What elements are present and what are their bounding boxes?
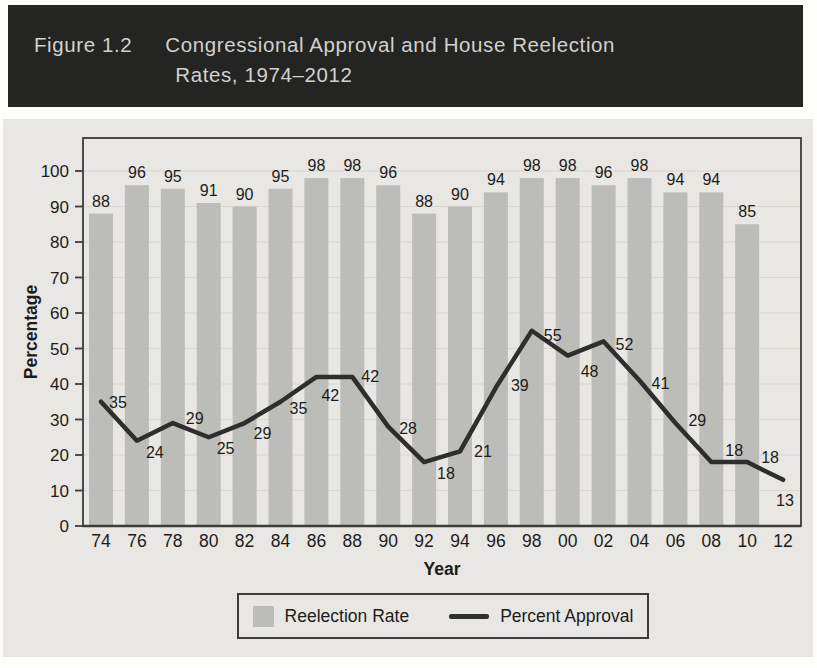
y-axis-tick-label: 100 <box>41 162 69 181</box>
reelection-bar <box>161 189 185 526</box>
approval-value-label: 42 <box>321 387 339 404</box>
bar-value-label: 88 <box>92 193 110 210</box>
chart-panel: 0102030405060708090100747678808284868890… <box>3 119 813 657</box>
reelection-bar <box>304 178 328 526</box>
bar-value-label: 85 <box>738 203 756 220</box>
approval-value-label: 29 <box>186 410 204 427</box>
reelection-bar <box>233 207 257 527</box>
approval-value-label: 52 <box>616 336 634 353</box>
x-axis-tick-label: 96 <box>486 531 505 551</box>
line-swatch-icon <box>449 614 489 619</box>
x-axis-tick-label: 88 <box>343 531 362 551</box>
reelection-bar <box>484 192 508 526</box>
reelection-bar <box>663 192 687 526</box>
approval-value-label: 48 <box>581 363 599 380</box>
y-axis-tick-label: 20 <box>50 446 69 465</box>
reelection-bar <box>412 214 436 526</box>
bar-value-label: 94 <box>487 171 505 188</box>
figure-title-line2: Rates, 1974–2012 <box>175 60 615 90</box>
y-axis-tick-label: 70 <box>50 269 69 288</box>
approval-value-label: 35 <box>290 400 308 417</box>
legend-label-reelection: Reelection Rate <box>285 606 410 627</box>
bar-swatch-icon <box>253 606 274 627</box>
reelection-bar <box>520 178 544 526</box>
y-axis-tick-label: 30 <box>50 411 69 430</box>
approval-value-label: 42 <box>361 368 379 385</box>
x-axis-tick-label: 74 <box>91 531 111 551</box>
reelection-bar <box>699 192 723 526</box>
bar-value-label: 88 <box>415 193 433 210</box>
bar-value-label: 96 <box>128 164 146 181</box>
y-axis-tick-label: 10 <box>50 482 69 501</box>
reelection-bar <box>735 224 759 526</box>
bar-value-label: 95 <box>164 168 182 185</box>
reelection-bar <box>197 203 221 526</box>
figure-title-bar: Figure 1.2 Congressional Approval and Ho… <box>8 5 803 107</box>
bar-value-label: 95 <box>272 168 290 185</box>
y-axis-tick-label: 40 <box>50 375 69 394</box>
figure: Figure 1.2 Congressional Approval and Ho… <box>0 0 817 668</box>
reelection-bar <box>340 178 364 526</box>
y-axis-tick-label: 60 <box>50 304 69 323</box>
x-axis-tick-label: 98 <box>522 531 541 551</box>
bar-value-label: 90 <box>236 186 254 203</box>
approval-value-label: 18 <box>437 465 455 482</box>
x-axis-tick-label: 86 <box>307 531 326 551</box>
figure-number: Figure 1.2 <box>34 30 132 60</box>
reelection-bar <box>269 189 293 526</box>
legend: Reelection Rate Percent Approval <box>237 593 649 639</box>
x-axis-title: Year <box>424 559 461 580</box>
y-axis-tick-label: 80 <box>50 233 69 252</box>
approval-value-label: 35 <box>109 394 127 411</box>
bar-value-label: 96 <box>379 164 397 181</box>
bar-value-label: 91 <box>200 182 218 199</box>
bar-value-label: 98 <box>308 157 326 174</box>
approval-value-label: 18 <box>761 449 779 466</box>
x-axis-tick-label: 92 <box>414 531 433 551</box>
y-axis-tick-label: 50 <box>50 340 69 359</box>
chart-plot: 0102030405060708090100747678808284868890… <box>3 119 813 657</box>
approval-value-label: 13 <box>776 492 794 509</box>
x-axis-tick-label: 76 <box>127 531 146 551</box>
x-axis-tick-label: 90 <box>378 531 398 551</box>
x-axis-tick-label: 94 <box>450 531 470 551</box>
x-axis-tick-label: 80 <box>199 531 219 551</box>
x-axis-tick-label: 00 <box>558 531 578 551</box>
figure-title-line1: Congressional Approval and House Reelect… <box>165 30 615 60</box>
y-axis-title: Percentage <box>21 285 42 379</box>
x-axis-tick-label: 84 <box>271 531 291 551</box>
approval-value-label: 24 <box>146 444 164 461</box>
approval-value-label: 28 <box>399 420 417 437</box>
approval-value-label: 55 <box>544 327 562 344</box>
approval-value-label: 41 <box>652 375 670 392</box>
reelection-bar <box>592 185 616 526</box>
bar-value-label: 94 <box>667 171 685 188</box>
reelection-bar <box>125 185 149 526</box>
reelection-bar <box>376 185 400 526</box>
figure-title: Congressional Approval and House Reelect… <box>165 30 615 90</box>
x-axis-tick-label: 82 <box>235 531 254 551</box>
x-axis-tick-label: 02 <box>594 531 613 551</box>
legend-item-reelection: Reelection Rate <box>253 606 410 627</box>
approval-value-label: 25 <box>217 440 235 457</box>
bar-value-label: 98 <box>559 157 577 174</box>
x-axis-tick-label: 78 <box>163 531 182 551</box>
reelection-bar <box>89 214 113 526</box>
x-axis-tick-label: 12 <box>773 531 792 551</box>
legend-label-approval: Percent Approval <box>500 606 633 627</box>
x-axis-tick-label: 08 <box>702 531 721 551</box>
y-axis-tick-label: 0 <box>60 517 69 536</box>
approval-value-label: 39 <box>511 377 529 394</box>
x-axis-tick-label: 06 <box>666 531 685 551</box>
bar-value-label: 98 <box>343 157 361 174</box>
approval-value-label: 18 <box>725 442 743 459</box>
bar-value-label: 94 <box>702 171 720 188</box>
bar-value-label: 98 <box>631 157 649 174</box>
legend-item-approval: Percent Approval <box>449 606 633 627</box>
x-axis-tick-label: 10 <box>737 531 757 551</box>
bar-value-label: 96 <box>595 164 613 181</box>
bar-value-label: 98 <box>523 157 541 174</box>
approval-value-label: 21 <box>474 443 492 460</box>
y-axis-tick-label: 90 <box>50 198 69 217</box>
bar-value-label: 90 <box>451 186 469 203</box>
